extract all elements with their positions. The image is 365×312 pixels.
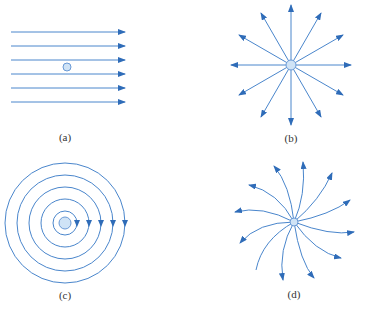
panel-c-circular-field [5, 163, 128, 283]
field-diagram: (a) (b) (c) [0, 0, 365, 312]
direction-arrows [74, 220, 128, 227]
panel-d-label: (d) [288, 288, 301, 301]
panel-a-uniform-field [11, 32, 125, 102]
test-charge-icon [63, 63, 71, 71]
panel-d-spiral-field [235, 162, 354, 280]
source-charge-icon [290, 218, 298, 226]
panel-b-label: (b) [285, 132, 298, 145]
source-charge-icon [286, 60, 296, 70]
current-wire-icon [59, 217, 71, 229]
panel-b-radial-field [231, 5, 351, 125]
panel-c-label: (c) [59, 289, 72, 302]
panel-a-label: (a) [59, 131, 72, 144]
